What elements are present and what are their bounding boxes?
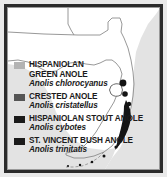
legend-common-name-line2: GREEN ANOLE [29,70,142,80]
species-distribution-figure: HISPANIOLAN GREEN ANOLE Anolis chlorocya… [0,0,167,177]
legend-entry-labels: ST. VINCENT BUSH ANOLE Anolis trinitatis [29,136,142,155]
legend: HISPANIOLAN GREEN ANOLE Anolis chlorocya… [14,60,142,158]
legend-swatch-icon [14,62,25,69]
distribution-marker [79,164,81,166]
legend-scientific-name: Anolis trinitatis [29,145,142,155]
legend-scientific-name: Anolis chlorocyanus [29,79,142,89]
distribution-marker [91,161,94,164]
state-boundary-vertical [68,8,74,35]
legend-entry-hispaniolan-stout-anole: HISPANIOLAN STOUT ANOLE Anolis cybotes [14,114,142,133]
legend-common-name: CRESTED ANOLE [29,92,142,102]
legend-entry-labels: HISPANIOLAN GREEN ANOLE Anolis chlorocya… [29,60,142,89]
legend-common-name: HISPANIOLAN [29,60,142,70]
legend-entry-st-vincent-bush-anole: ST. VINCENT BUSH ANOLE Anolis trinitatis [14,136,142,155]
state-boundary-north [8,18,120,35]
map-plate: HISPANIOLAN GREEN ANOLE Anolis chlorocya… [7,7,160,170]
legend-common-name: ST. VINCENT BUSH ANOLE [29,136,142,146]
legend-swatch-icon [14,116,25,123]
legend-swatch-icon [14,138,25,145]
legend-entry-labels: HISPANIOLAN STOUT ANOLE Anolis cybotes [29,114,143,133]
legend-entry-labels: CRESTED ANOLE Anolis cristatellus [29,92,142,111]
legend-swatch-icon [14,94,25,101]
legend-scientific-name: Anolis cristatellus [29,101,142,111]
legend-entry-crested-anole: CRESTED ANOLE Anolis cristatellus [14,92,142,111]
distribution-marker [67,165,69,167]
map-frame: HISPANIOLAN GREEN ANOLE Anolis chlorocya… [4,4,163,173]
legend-entry-hispaniolan-green-anole: HISPANIOLAN GREEN ANOLE Anolis chlorocya… [14,60,142,89]
legend-scientific-name: Anolis cybotes [29,123,143,133]
legend-common-name: HISPANIOLAN STOUT ANOLE [29,114,143,124]
state-boundary-east [120,18,124,38]
